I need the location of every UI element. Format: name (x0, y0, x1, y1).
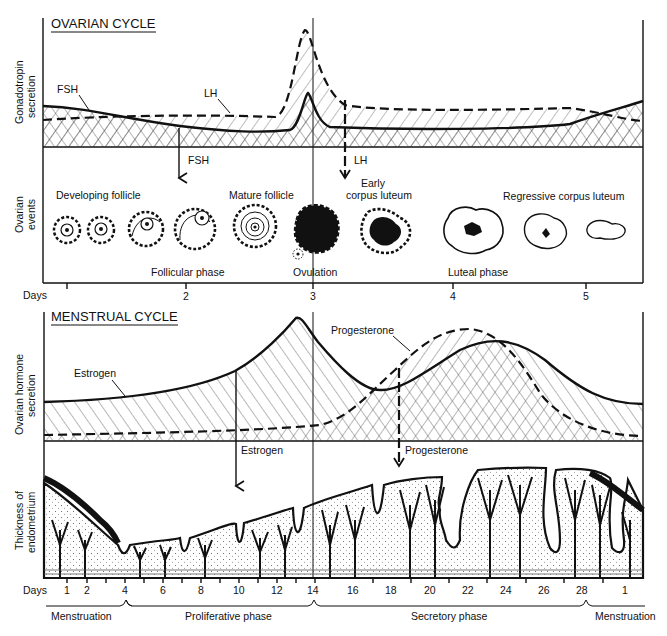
day-tick-label: 20 (424, 584, 436, 596)
ovarian-events-label-1: Ovarian (13, 196, 25, 233)
reproductive-cycle-diagram: OVARIAN CYCLE FSH LH FSH LH Gonadotropin… (0, 0, 667, 636)
corpus-luteum (444, 207, 503, 253)
endometrium-illustration (44, 468, 643, 578)
menstruation-label-start: Menstruation (51, 610, 112, 622)
menstrual-days-label: Days (23, 584, 47, 596)
ovarian-day-tick: 2 (183, 290, 189, 302)
day-tick-label: 22 (462, 584, 474, 596)
mature-follicle-label: Mature follicle (229, 189, 294, 201)
gonadotropin-ylabel-2: secretion (25, 75, 37, 118)
ovulation-label: Ovulation (293, 266, 338, 278)
progesterone-arrow-label: Progesterone (405, 444, 468, 456)
hormone-ylabel-1: Ovarian hormone (13, 354, 25, 435)
ovarian-day-tick: 5 (583, 290, 589, 302)
lh-curve-label: LH (204, 87, 217, 99)
lh-area (43, 30, 643, 147)
endometrium-label-1: Thickness of (13, 491, 25, 550)
menstrual-cycle-panel: MENSTRUAL CYCLE Estrogen Progesterone Es… (13, 309, 656, 622)
progesterone-curve-label: Progesterone (331, 324, 394, 336)
early-cl-label-2: corpus luteum (346, 189, 412, 201)
regressive-corpus-luteum-1 (524, 214, 566, 249)
day-tick-label: 6 (160, 584, 166, 596)
day-tick-label: 10 (233, 584, 245, 596)
menstruation-label-end: Menstruation (595, 610, 656, 622)
day-tick-label: 24 (500, 584, 512, 596)
lh-pointer (218, 99, 230, 113)
day-tick-label: 1 (64, 584, 70, 596)
early-cl-label-1: Early (361, 177, 386, 189)
day-tick-label: 8 (198, 584, 204, 596)
day-tick-label: 1 (622, 584, 628, 596)
lh-arrow-label: LH (354, 154, 367, 166)
day-tick-label: 26 (538, 584, 550, 596)
day-tick-label: 16 (347, 584, 359, 596)
regressive-cl-label: Regressive corpus luteum (503, 190, 625, 202)
day-tick-label: 18 (385, 584, 397, 596)
estrogen-curve-label: Estrogen (74, 367, 116, 379)
follicle-stage-4 (175, 209, 215, 249)
ovulating-follicle (293, 205, 338, 259)
day-tick-label: 4 (122, 584, 128, 596)
fsh-curve-label: FSH (57, 83, 78, 95)
ovarian-days-label: Days (23, 289, 47, 301)
mature-follicle (234, 205, 276, 247)
fsh-arrow-label: FSH (188, 154, 209, 166)
follicle-stage-1 (54, 217, 80, 243)
fsh-pointer (79, 95, 89, 110)
hormone-ylabel-2: secretion (25, 374, 37, 417)
ovarian-cycle-panel: OVARIAN CYCLE FSH LH FSH LH Gonadotropin… (13, 16, 643, 302)
day-tick-label: 28 (576, 584, 588, 596)
day-tick-label: 2 (84, 584, 90, 596)
day-tick-label: 14 (307, 584, 319, 596)
regressive-corpus-luteum-2 (587, 221, 625, 240)
gonadotropin-ylabel-1: Gonadotropin (13, 60, 25, 124)
progesterone-pointer (393, 336, 410, 351)
menstrual-cycle-title: MENSTRUAL CYCLE (51, 309, 178, 324)
follicular-phase-label: Follicular phase (151, 266, 225, 278)
ovarian-events-label-2: events (25, 199, 37, 230)
ovarian-cycle-title: OVARIAN CYCLE (51, 16, 156, 31)
phase-braces (46, 600, 645, 606)
follicle-stage-3 (129, 212, 163, 246)
ovarian-day-tick: 3 (310, 290, 316, 302)
follicle-stage-2 (88, 217, 114, 243)
secretory-phase-label: Secretory phase (411, 610, 488, 622)
estrogen-pointer (112, 380, 125, 396)
developing-follicle-label: Developing follicle (56, 189, 141, 201)
early-corpus-luteum (361, 209, 410, 253)
luteal-phase-label: Luteal phase (448, 266, 508, 278)
proliferative-phase-label: Proliferative phase (185, 610, 272, 622)
ovarian-day-tick: 4 (450, 290, 456, 302)
estrogen-arrow-label: Estrogen (241, 444, 283, 456)
endometrium-label-2: endometrium (25, 491, 37, 553)
day-tick-label: 12 (271, 584, 283, 596)
